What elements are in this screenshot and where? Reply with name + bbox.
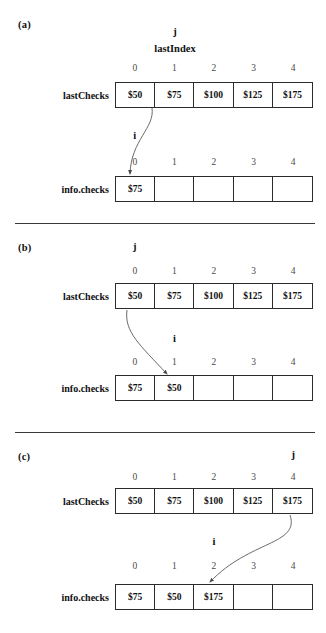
index-cell: 4: [273, 357, 313, 367]
panel-b-dest-label: info.checks: [20, 383, 109, 394]
panel-a-pointer-i: i: [115, 130, 155, 141]
index-cell: 0: [115, 63, 155, 73]
array-cell: $75: [116, 376, 155, 400]
array-cell: $175: [194, 585, 233, 609]
array-cell: $50: [116, 284, 155, 308]
array-cell: [234, 585, 273, 609]
array-cell: $75: [116, 177, 155, 201]
array-cell: $125: [234, 83, 273, 107]
panel-c-pointer-i: i: [194, 536, 234, 547]
array-cell: $75: [155, 489, 194, 513]
index-cell: 2: [194, 357, 234, 367]
index-cell: 0: [115, 357, 155, 367]
array-cell: $50: [116, 83, 155, 107]
array-cell: $175: [273, 83, 312, 107]
array-cell: $75: [155, 284, 194, 308]
panel-a-source-label: lastChecks: [20, 90, 109, 101]
index-cell: 1: [155, 266, 195, 276]
index-cell: 1: [155, 157, 195, 167]
panel-c-dest-indices: 0 1 2 3 4: [115, 561, 313, 571]
array-cell: $100: [194, 83, 233, 107]
panel-a-pointer-lastindex: lastIndex: [140, 43, 210, 54]
array-cell: $175: [273, 489, 312, 513]
index-cell: 0: [115, 561, 155, 571]
index-cell: 1: [155, 357, 195, 367]
index-cell: 3: [234, 266, 274, 276]
index-cell: 2: [194, 157, 234, 167]
index-cell: 0: [115, 266, 155, 276]
index-cell: 3: [234, 157, 274, 167]
panel-b-pointer-i: i: [155, 333, 195, 344]
array-cell: [194, 177, 233, 201]
panel-b-source-row: $50 $75 $100 $125 $175: [115, 283, 313, 309]
panel-c-dest-row: $75 $50 $175: [115, 584, 313, 610]
array-cell: [273, 177, 312, 201]
array-cell: [273, 585, 312, 609]
index-cell: 3: [234, 63, 274, 73]
index-cell: 0: [115, 157, 155, 167]
index-cell: 1: [155, 472, 195, 482]
panel-a-dest-indices: 0 1 2 3 4: [115, 157, 313, 167]
index-cell: 3: [234, 472, 274, 482]
index-cell: 1: [155, 561, 195, 571]
array-cell: $100: [194, 284, 233, 308]
array-cell: $175: [273, 284, 312, 308]
panel-c-source-indices: 0 1 2 3 4: [115, 472, 313, 482]
panel-c-label: (c): [18, 451, 30, 462]
panel-b-label: (b): [18, 242, 31, 253]
index-cell: 2: [194, 266, 234, 276]
panel-b-dest-row: $75 $50: [115, 375, 313, 401]
index-cell: 4: [273, 157, 313, 167]
panel-b-pointer-j: j: [115, 241, 155, 252]
array-cell: $50: [155, 585, 194, 609]
panel-a-source-row: $50 $75 $100 $125 $175: [115, 82, 313, 108]
array-cell: [234, 177, 273, 201]
array-cell: $125: [234, 489, 273, 513]
index-cell: 3: [234, 357, 274, 367]
array-cell: $100: [194, 489, 233, 513]
panel-a-dest-row: $75: [115, 176, 313, 202]
array-cell: $125: [234, 284, 273, 308]
panel-a-dest-label: info.checks: [20, 184, 109, 195]
panel-a: (a) j lastIndex 0 1 2 3 4 lastChecks $50…: [0, 0, 326, 223]
panel-a-pointer-j: j: [155, 26, 195, 37]
index-cell: 4: [273, 266, 313, 276]
array-cell: [155, 177, 194, 201]
panel-a-source-indices: 0 1 2 3 4: [115, 63, 313, 73]
index-cell: 1: [155, 63, 195, 73]
panel-b-source-label: lastChecks: [20, 291, 109, 302]
array-cell: [194, 376, 233, 400]
index-cell: 3: [234, 561, 274, 571]
index-cell: 2: [194, 472, 234, 482]
array-cell: $75: [116, 585, 155, 609]
array-cell: [273, 376, 312, 400]
panel-c: (c) j 0 1 2 3 4 lastChecks $50 $75 $100 …: [0, 432, 326, 633]
panel-b-source-indices: 0 1 2 3 4: [115, 266, 313, 276]
panel-b-dest-indices: 0 1 2 3 4: [115, 357, 313, 367]
index-cell: 4: [273, 472, 313, 482]
array-cell: $50: [116, 489, 155, 513]
index-cell: 2: [194, 561, 234, 571]
panel-c-dest-label: info.checks: [20, 592, 109, 603]
index-cell: 0: [115, 472, 155, 482]
index-cell: 4: [273, 63, 313, 73]
index-cell: 4: [273, 561, 313, 571]
array-cell: $75: [155, 83, 194, 107]
array-cell: [234, 376, 273, 400]
panel-c-source-row: $50 $75 $100 $125 $175: [115, 488, 313, 514]
panel-a-label: (a): [18, 19, 31, 30]
array-cell: $50: [155, 376, 194, 400]
index-cell: 2: [194, 63, 234, 73]
panel-b: (b) j 0 1 2 3 4 lastChecks $50 $75 $100 …: [0, 223, 326, 432]
panel-c-source-label: lastChecks: [20, 496, 109, 507]
panel-c-pointer-j: j: [273, 449, 313, 460]
